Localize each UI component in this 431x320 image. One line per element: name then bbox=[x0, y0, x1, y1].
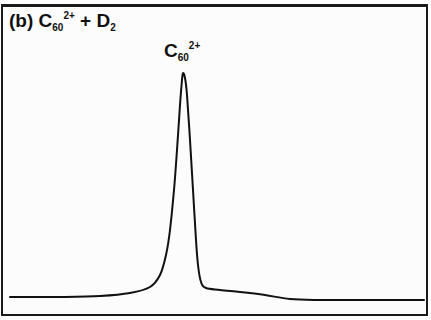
chart-plot bbox=[0, 0, 431, 320]
signal-line bbox=[10, 73, 424, 300]
